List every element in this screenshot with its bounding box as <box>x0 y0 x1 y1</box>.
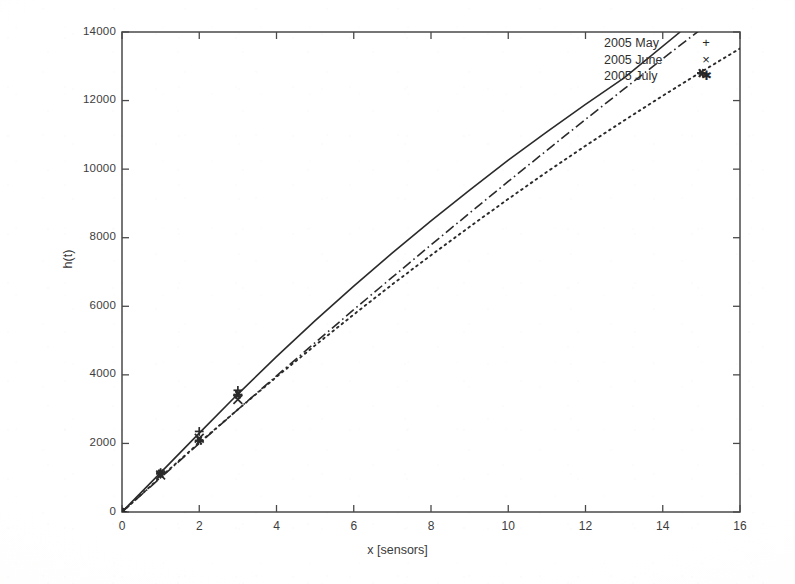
x-tick-label: 4 <box>257 519 297 533</box>
axis-ticks <box>122 32 740 512</box>
data-curves <box>122 29 740 512</box>
x-tick-label: 14 <box>643 519 683 533</box>
y-tick-label: 6000 <box>58 299 116 311</box>
y-tick-label: 14000 <box>58 25 116 37</box>
y-tick-label: 10000 <box>58 162 116 174</box>
legend-label: 2005 May <box>604 36 692 50</box>
x-tick-label: 0 <box>102 519 142 533</box>
y-tick-label: 4000 <box>58 367 116 379</box>
x-tick-label: 8 <box>411 519 451 533</box>
x-tick-label: 12 <box>566 519 606 533</box>
legend-entry-2005-june: 2005 June × <box>604 53 734 69</box>
chart-figure: 02000400060008000100001200014000 0246810… <box>0 0 795 584</box>
chart-legend: 2005 May + 2005 June × 2005 July ✱ <box>604 36 734 88</box>
x-tick-label: 2 <box>179 519 219 533</box>
x-tick-label: 16 <box>720 519 760 533</box>
series-line-2005-july <box>122 48 740 512</box>
legend-marker-star-icon: ✱ <box>696 68 716 84</box>
plot-frame <box>122 32 740 512</box>
series-line-2005-may <box>122 32 680 512</box>
x-axis-title: x [sensors] <box>0 543 795 557</box>
legend-label: 2005 July <box>604 69 692 83</box>
y-tick-label: 12000 <box>58 93 116 105</box>
legend-entry-2005-may: 2005 May + <box>604 36 734 52</box>
legend-marker-cross-icon: × <box>696 52 716 68</box>
y-axis-title: h(t) <box>61 229 75 289</box>
data-markers <box>118 69 706 516</box>
legend-entry-2005-july: 2005 July ✱ <box>604 69 734 85</box>
x-tick-label: 6 <box>334 519 374 533</box>
x-tick-label: 10 <box>488 519 528 533</box>
y-tick-label: 2000 <box>58 436 116 448</box>
y-tick-label: 0 <box>58 505 116 517</box>
legend-label: 2005 June <box>604 53 692 67</box>
legend-marker-plus-icon: + <box>696 35 716 51</box>
